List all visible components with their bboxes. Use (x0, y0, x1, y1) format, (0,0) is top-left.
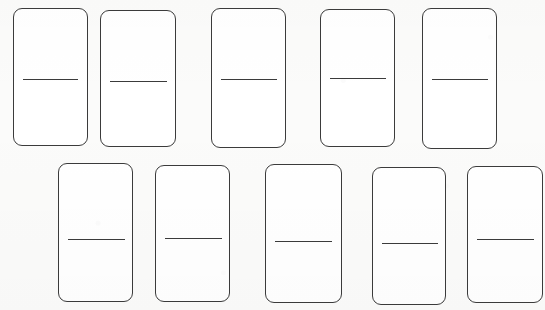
domino-half-top (423, 9, 496, 79)
domino-scene (0, 0, 545, 310)
domino-half-bottom (212, 78, 285, 147)
domino-half-bottom (423, 79, 496, 149)
domino-half-top (468, 167, 542, 235)
domino-half-bottom (14, 77, 87, 145)
domino-half-top (321, 10, 394, 78)
domino-half-top (373, 168, 445, 236)
domino-divider-line (382, 243, 438, 244)
domino-half-bottom (468, 235, 542, 303)
domino-divider-line (165, 238, 222, 239)
domino-divider-line (432, 79, 488, 80)
domino-half-top (101, 11, 175, 79)
domino-half-bottom (373, 236, 445, 304)
domino-divider-line (477, 239, 534, 240)
domino-half-top (266, 165, 341, 234)
domino-tile[interactable] (265, 164, 342, 303)
domino-half-bottom (266, 234, 341, 303)
domino-tile[interactable] (467, 166, 543, 303)
domino-divider-line (221, 79, 277, 80)
domino-half-bottom (59, 233, 132, 302)
domino-half-top (212, 9, 285, 78)
domino-tile[interactable] (100, 10, 176, 147)
domino-half-top (59, 164, 132, 233)
domino-divider-line (23, 79, 78, 80)
domino-divider-line (275, 241, 332, 242)
domino-half-bottom (101, 79, 175, 147)
domino-tile[interactable] (58, 163, 133, 302)
domino-tile[interactable] (13, 8, 88, 146)
domino-half-bottom (156, 234, 229, 302)
domino-divider-line (68, 239, 125, 240)
domino-divider-line (330, 78, 386, 79)
domino-tile[interactable] (372, 167, 446, 305)
domino-half-top (156, 166, 229, 234)
domino-tile[interactable] (211, 8, 286, 148)
domino-divider-line (110, 81, 167, 82)
domino-tile[interactable] (155, 165, 230, 302)
domino-half-bottom (321, 78, 394, 146)
domino-half-top (14, 9, 87, 77)
